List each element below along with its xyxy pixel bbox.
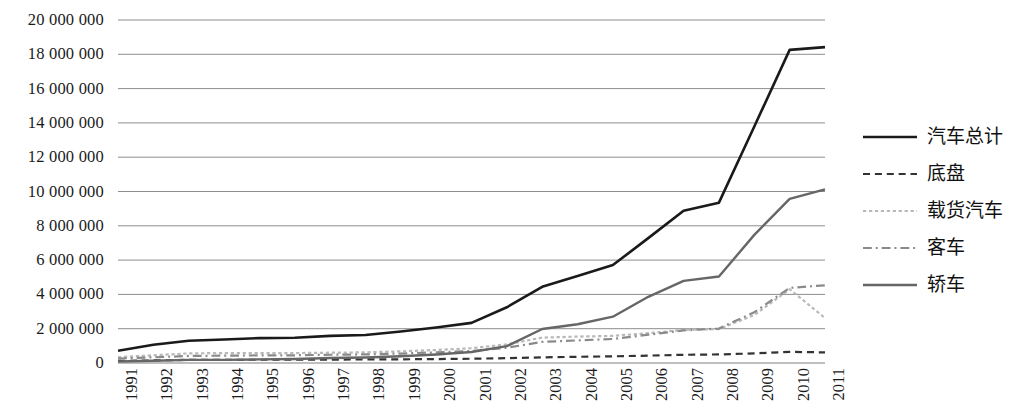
x-axis-tick-label: 1995	[265, 368, 282, 401]
legend-swatch-line-3	[862, 241, 918, 255]
legend-swatch-line-1	[862, 167, 918, 181]
plot-area	[118, 0, 828, 416]
line-chart: 02 000 0004 000 0006 000 0008 000 00010 …	[0, 0, 1015, 416]
x-axis-tick-label: 1994	[230, 368, 247, 401]
chart-legend: 汽车总计 底盘 载货汽车 客车 轿车	[862, 118, 1012, 303]
x-axis-tick-label: 2009	[760, 368, 777, 401]
y-axis-tick-label: 20 000 000	[28, 12, 104, 29]
y-axis-tick-label: 16 000 000	[28, 80, 104, 97]
x-axis-tick-label: 1993	[195, 368, 212, 401]
legend-item-4[interactable]: 轿车	[862, 266, 1012, 303]
legend-label-0: 汽车总计	[927, 127, 1003, 146]
legend-item-1[interactable]: 底盘	[862, 155, 1012, 192]
x-axis-tick-label: 2005	[619, 368, 636, 401]
x-axis-tick-label: 1999	[407, 368, 424, 401]
legend-swatch-line-4	[862, 278, 918, 292]
legend-item-0[interactable]: 汽车总计	[862, 118, 1012, 155]
series-lines	[118, 47, 825, 361]
y-axis-tick-label: 8 000 000	[36, 218, 104, 235]
gridlines	[118, 20, 825, 363]
legend-label-3: 客车	[927, 238, 965, 257]
legend-swatch-line-2	[862, 204, 918, 218]
y-axis-tick-label: 4 000 000	[36, 286, 104, 303]
x-axis-labels: 1991199219931994199519961997199819992000…	[118, 366, 828, 416]
y-axis-tick-label: 14 000 000	[28, 115, 104, 132]
x-axis-tick-label: 2001	[478, 368, 495, 401]
y-axis-tick-label: 12 000 000	[28, 149, 104, 166]
series-line-0	[118, 47, 825, 351]
legend-item-2[interactable]: 载货汽车	[862, 192, 1012, 229]
x-axis-tick-label: 2007	[690, 368, 707, 401]
x-axis-tick-label: 1998	[371, 368, 388, 401]
x-axis-tick-label: 2003	[548, 368, 565, 401]
y-axis-tick-label: 18 000 000	[28, 46, 104, 63]
legend-label-1: 底盘	[927, 164, 965, 183]
x-axis-tick-label: 2002	[513, 368, 530, 401]
x-axis-tick-label: 2010	[796, 368, 813, 401]
x-axis-tick-label: 2008	[725, 368, 742, 401]
series-line-4	[118, 189, 825, 361]
plot-svg	[118, 0, 828, 416]
y-axis-tick-label: 0	[96, 355, 104, 372]
legend-item-3[interactable]: 客车	[862, 229, 1012, 266]
x-axis-tick-label: 2011	[831, 368, 848, 400]
y-axis-tick-label: 6 000 000	[36, 252, 104, 269]
legend-label-4: 轿车	[927, 275, 965, 294]
x-axis-tick-label: 1992	[159, 368, 176, 401]
x-axis-tick-label: 2004	[584, 368, 601, 401]
x-axis-tick-label: 2000	[442, 368, 459, 401]
x-axis-tick-label: 1991	[124, 368, 141, 401]
x-axis-tick-label: 1997	[336, 368, 353, 401]
legend-swatch-line-0	[862, 130, 918, 144]
y-axis-tick-label: 2 000 000	[36, 320, 104, 337]
x-axis-tick-label: 1996	[301, 368, 318, 401]
y-axis-tick-label: 10 000 000	[28, 183, 104, 200]
legend-label-2: 载货汽车	[927, 201, 1003, 220]
y-axis-labels: 02 000 0004 000 0006 000 0008 000 00010 …	[0, 0, 112, 416]
x-axis-tick-label: 2006	[654, 368, 671, 401]
